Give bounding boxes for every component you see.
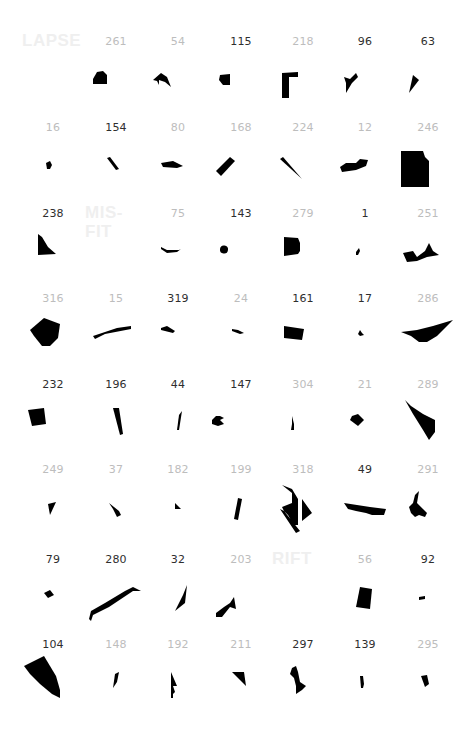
shape-item[interactable]: 92: [397, 553, 459, 639]
shape-item[interactable]: 304: [272, 378, 334, 464]
shape-item[interactable]: 56: [334, 553, 396, 639]
word-cell[interactable]: MIS- FIT: [85, 207, 147, 293]
fragment-shape-icon: [22, 638, 84, 724]
fragment-shape-icon: [22, 121, 84, 207]
shape-item[interactable]: 279: [272, 207, 334, 293]
fragment-shape-icon: [397, 378, 459, 464]
fragment-shape-icon: [147, 638, 209, 724]
fragment-shape-icon: [85, 378, 147, 464]
shape-item[interactable]: 168: [210, 121, 272, 207]
shape-item[interactable]: 318: [272, 463, 334, 549]
fragment-shape-icon: [334, 35, 396, 121]
shape-item[interactable]: 291: [397, 463, 459, 549]
shape-item[interactable]: 17: [334, 292, 396, 378]
shape-item[interactable]: 280: [85, 553, 147, 639]
fragment-shape-icon: [334, 207, 396, 293]
fragment-shape-icon: [272, 121, 334, 207]
fragment-shape-icon: [85, 553, 147, 639]
word-label: MIS- FIT: [85, 203, 123, 241]
shape-item[interactable]: 79: [22, 553, 84, 639]
shape-item[interactable]: 80: [147, 121, 209, 207]
fragment-shape-icon: [22, 463, 84, 549]
shape-item[interactable]: 232: [22, 378, 84, 464]
shape-item[interactable]: 319: [147, 292, 209, 378]
shape-item[interactable]: 15: [85, 292, 147, 378]
word-cell[interactable]: RIFT: [272, 553, 334, 639]
shape-item[interactable]: 182: [147, 463, 209, 549]
fragment-shape-icon: [210, 463, 272, 549]
shape-item[interactable]: 196: [85, 378, 147, 464]
fragment-shape-icon: [397, 463, 459, 549]
fragment-shape-icon: [272, 638, 334, 724]
fragment-shape-icon: [272, 463, 334, 549]
shape-item[interactable]: 54: [147, 35, 209, 121]
fragment-shape-icon: [397, 553, 459, 639]
fragment-shape-icon: [210, 121, 272, 207]
shape-item[interactable]: 21: [334, 378, 396, 464]
word-cell[interactable]: LAPSE: [22, 35, 84, 121]
shape-item[interactable]: 218: [272, 35, 334, 121]
shape-item[interactable]: 286: [397, 292, 459, 378]
shape-item[interactable]: 316: [22, 292, 84, 378]
fragment-shape-icon: [334, 121, 396, 207]
fragment-shape-icon: [22, 553, 84, 639]
fragment-shape-icon: [85, 638, 147, 724]
shape-item[interactable]: 32: [147, 553, 209, 639]
fragment-shape-icon: [272, 378, 334, 464]
shape-item[interactable]: 143: [210, 207, 272, 293]
shape-item[interactable]: 289: [397, 378, 459, 464]
shape-item[interactable]: 224: [272, 121, 334, 207]
shape-item[interactable]: 44: [147, 378, 209, 464]
fragment-shape-icon: [147, 463, 209, 549]
shape-item[interactable]: 251: [397, 207, 459, 293]
shape-item[interactable]: 16: [22, 121, 84, 207]
shape-item[interactable]: 199: [210, 463, 272, 549]
shape-item[interactable]: 12: [334, 121, 396, 207]
shape-item[interactable]: 96: [334, 35, 396, 121]
shape-grid: LAPSE26154115218966316154801682241224623…: [0, 0, 464, 744]
shape-item[interactable]: 75: [147, 207, 209, 293]
shape-item[interactable]: 37: [85, 463, 147, 549]
fragment-shape-icon: [272, 292, 334, 378]
shape-item[interactable]: 161: [272, 292, 334, 378]
fragment-shape-icon: [22, 292, 84, 378]
fragment-shape-icon: [397, 207, 459, 293]
word-label: LAPSE: [22, 31, 81, 50]
shape-item[interactable]: 246: [397, 121, 459, 207]
fragment-shape-icon: [147, 35, 209, 121]
shape-item[interactable]: 24: [210, 292, 272, 378]
fragment-shape-icon: [85, 292, 147, 378]
fragment-shape-icon: [210, 553, 272, 639]
fragment-shape-icon: [85, 121, 147, 207]
fragment-shape-icon: [85, 35, 147, 121]
fragment-shape-icon: [334, 292, 396, 378]
shape-item[interactable]: 192: [147, 638, 209, 724]
shape-item[interactable]: 297: [272, 638, 334, 724]
shape-item[interactable]: 261: [85, 35, 147, 121]
fragment-shape-icon: [334, 638, 396, 724]
word-label: RIFT: [272, 549, 312, 568]
fragment-shape-icon: [397, 35, 459, 121]
shape-item[interactable]: 49: [334, 463, 396, 549]
shape-item[interactable]: 63: [397, 35, 459, 121]
shape-item[interactable]: 211: [210, 638, 272, 724]
fragment-shape-icon: [334, 463, 396, 549]
fragment-shape-icon: [147, 553, 209, 639]
shape-item[interactable]: 154: [85, 121, 147, 207]
shape-item[interactable]: 139: [334, 638, 396, 724]
shape-item[interactable]: 104: [22, 638, 84, 724]
shape-item[interactable]: 249: [22, 463, 84, 549]
shape-item[interactable]: 238: [22, 207, 84, 293]
shape-item[interactable]: 115: [210, 35, 272, 121]
shape-item[interactable]: 295: [397, 638, 459, 724]
fragment-shape-icon: [210, 638, 272, 724]
fragment-shape-icon: [272, 207, 334, 293]
shape-item[interactable]: 1: [334, 207, 396, 293]
shape-item[interactable]: 148: [85, 638, 147, 724]
shape-item[interactable]: 203: [210, 553, 272, 639]
fragment-shape-icon: [147, 121, 209, 207]
fragment-shape-icon: [22, 207, 84, 293]
shape-item[interactable]: 147: [210, 378, 272, 464]
fragment-shape-icon: [397, 121, 459, 207]
fragment-shape-icon: [210, 35, 272, 121]
